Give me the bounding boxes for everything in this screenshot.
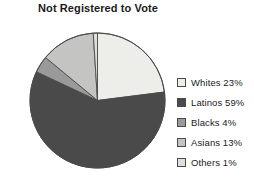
legend-label-latinos: Latinos 59% xyxy=(191,97,244,108)
chart-title: Not Registered to Vote xyxy=(0,2,196,14)
legend-swatch-latinos xyxy=(177,98,186,107)
legend-item-latinos[interactable]: Latinos 59% xyxy=(177,92,254,112)
pie-chart-plot-area xyxy=(29,32,166,169)
legend-swatch-whites xyxy=(177,78,186,87)
legend-item-others[interactable]: Others 1% xyxy=(177,152,254,172)
legend-label-blacks: Blacks 4% xyxy=(191,117,236,128)
pie-chart-figure: Not Registered to Vote Whites 23% Latino… xyxy=(0,0,254,188)
legend-item-asians[interactable]: Asians 13% xyxy=(177,132,254,152)
legend-swatch-asians xyxy=(177,138,186,147)
legend-swatch-blacks xyxy=(177,118,186,127)
legend-swatch-others xyxy=(177,158,186,167)
chart-legend: Whites 23% Latinos 59% Blacks 4% Asians … xyxy=(177,72,254,172)
pie-svg xyxy=(29,32,166,169)
legend-item-blacks[interactable]: Blacks 4% xyxy=(177,112,254,132)
legend-label-others: Others 1% xyxy=(191,157,237,168)
pie-slice-whites[interactable] xyxy=(98,33,165,101)
pie-slice-group xyxy=(30,33,165,168)
legend-label-asians: Asians 13% xyxy=(191,137,242,148)
legend-item-whites[interactable]: Whites 23% xyxy=(177,72,254,92)
legend-label-whites: Whites 23% xyxy=(191,77,243,88)
